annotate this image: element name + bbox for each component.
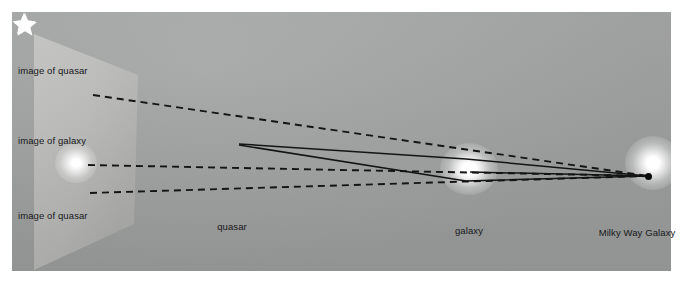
light-ray-layer	[12, 12, 671, 271]
diagram-panel: image of quasar image of galaxy image of…	[12, 12, 671, 271]
label-quasar: quasar	[217, 222, 247, 232]
observer-dot	[645, 173, 652, 180]
label-milky-way-galaxy: Milky Way Galaxy	[599, 228, 676, 238]
label-image-of-quasar-bottom: image of quasar	[18, 211, 88, 221]
figure-canvas: image of quasar image of galaxy image of…	[0, 0, 682, 287]
label-galaxy: galaxy	[455, 226, 483, 236]
sightline-upper-quasar-image	[93, 95, 648, 176]
ray-quasar-over-galaxy	[239, 144, 648, 176]
label-image-of-quasar-top: image of quasar	[18, 66, 88, 76]
label-image-of-galaxy: image of galaxy	[18, 136, 86, 146]
